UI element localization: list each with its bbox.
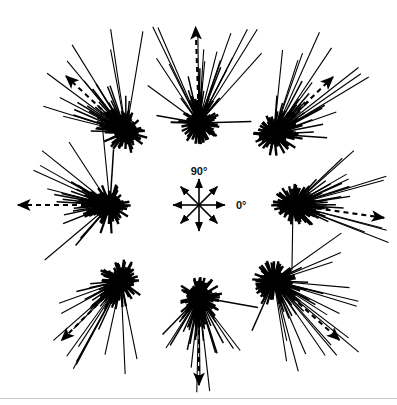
individual-vector: [274, 68, 358, 135]
cluster-hub: [114, 122, 138, 143]
vector-plot-svg: 90° 0°: [0, 0, 397, 405]
cluster-90: [148, 27, 262, 144]
compass-label-0: 0°: [236, 199, 247, 211]
cluster-270: [163, 277, 258, 392]
cluster-hub: [262, 124, 286, 145]
cluster-180: [18, 111, 131, 260]
compass-arrow-225: [181, 205, 199, 223]
figure-canvas: 90° 0°: [0, 0, 397, 405]
individual-vector: [156, 58, 199, 123]
compass-arrow-45: [199, 187, 217, 205]
mean-vector-arrow: [62, 285, 117, 340]
compass-arrow-315: [199, 205, 217, 223]
compass-label-90: 90°: [191, 165, 208, 177]
compass-rose: [173, 179, 225, 231]
bottom-divider: [0, 398, 397, 399]
cluster-hub: [109, 271, 133, 292]
cluster-45: [253, 32, 368, 155]
compass-arrow-135: [181, 187, 199, 205]
cluster-hub: [281, 195, 305, 216]
cluster-0: [271, 151, 388, 271]
cluster-hub: [262, 271, 286, 292]
individual-vector: [199, 53, 262, 123]
cluster-315: [252, 233, 359, 371]
cluster-225: [53, 260, 140, 374]
cluster-135: [43, 29, 147, 153]
